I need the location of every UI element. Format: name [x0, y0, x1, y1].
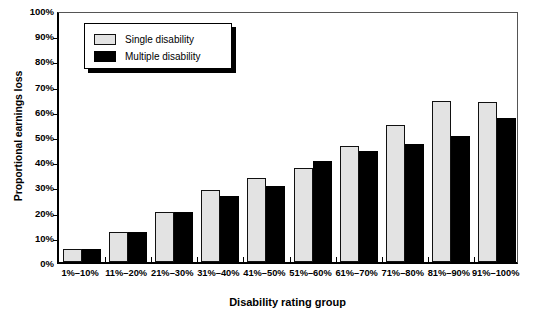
- bar-multiple-disability: [174, 212, 193, 262]
- bar-multiple-disability: [220, 196, 239, 262]
- legend-item-multiple: Multiple disability: [94, 48, 201, 64]
- bar-single-disability: [294, 168, 313, 263]
- bar-single-disability: [340, 146, 359, 262]
- bar-single-disability: [386, 125, 405, 262]
- legend-swatch-multiple-icon: [94, 51, 116, 62]
- x-tick-mark: [243, 257, 244, 263]
- y-tick-mark: [53, 63, 59, 64]
- x-tick-label: 71%–80%: [380, 266, 426, 280]
- y-tick-label: 70%: [20, 83, 54, 93]
- bar-group: [294, 13, 332, 262]
- y-tick-mark: [53, 89, 59, 90]
- x-tick-label: 11%–20%: [103, 266, 149, 280]
- y-tick-mark: [53, 164, 59, 165]
- y-tick-mark: [53, 114, 59, 115]
- bar-single-disability: [432, 101, 451, 262]
- x-tick-label: 91%–100%: [472, 266, 518, 280]
- x-axis-tick-labels: 1%–10%11%–20%21%–30%31%–40%41%–50%51%–60…: [57, 266, 518, 282]
- y-tick-label: 60%: [20, 108, 54, 118]
- y-tick-label: 0%: [20, 259, 54, 269]
- bar-chart: Proportional earnings loss 0%10%20%30%40…: [0, 0, 534, 320]
- y-tick-label: 90%: [20, 32, 54, 42]
- y-tick-mark: [53, 215, 59, 216]
- y-tick-label: 100%: [20, 7, 54, 17]
- y-tick-mark: [53, 189, 59, 190]
- x-tick-label: 21%–30%: [149, 266, 195, 280]
- bar-single-disability: [63, 249, 82, 262]
- x-tick-label: 51%–60%: [288, 266, 334, 280]
- bar-multiple-disability: [405, 144, 424, 262]
- bar-multiple-disability: [451, 136, 470, 262]
- x-tick-label: 81%–90%: [426, 266, 472, 280]
- y-axis-tick-labels: 0%10%20%30%40%50%60%70%80%90%100%: [20, 0, 54, 320]
- bar-multiple-disability: [128, 232, 147, 262]
- legend-label-single: Single disability: [125, 34, 194, 45]
- bar-group: [478, 13, 516, 262]
- y-tick-label: 40%: [20, 158, 54, 168]
- y-tick-mark: [53, 139, 59, 140]
- x-tick-label: 61%–70%: [334, 266, 380, 280]
- x-tick-mark: [197, 257, 198, 263]
- chart-legend: Single disability Multiple disability: [84, 23, 232, 69]
- x-tick-mark: [105, 257, 106, 263]
- bar-single-disability: [109, 232, 128, 262]
- bar-single-disability: [478, 102, 497, 262]
- x-tick-mark: [151, 257, 152, 263]
- bar-single-disability: [155, 212, 174, 262]
- legend-label-multiple: Multiple disability: [125, 51, 201, 62]
- y-tick-label: 50%: [20, 133, 54, 143]
- legend-item-single: Single disability: [94, 31, 194, 47]
- y-tick-label: 30%: [20, 184, 54, 194]
- x-tick-mark: [428, 257, 429, 263]
- bar-group: [386, 13, 424, 262]
- y-tick-mark: [53, 240, 59, 241]
- y-tick-label: 80%: [20, 58, 54, 68]
- y-tick-mark: [53, 38, 59, 39]
- x-tick-mark: [382, 257, 383, 263]
- x-tick-label: 1%–10%: [57, 266, 103, 280]
- bar-multiple-disability: [359, 151, 378, 262]
- bar-multiple-disability: [82, 249, 101, 262]
- x-tick-label: 31%–40%: [195, 266, 241, 280]
- x-axis-title: Disability rating group: [57, 296, 518, 308]
- bar-group: [340, 13, 378, 262]
- bar-group: [432, 13, 470, 262]
- bar-single-disability: [247, 178, 266, 262]
- x-tick-mark: [474, 257, 475, 263]
- bar-multiple-disability: [313, 161, 332, 262]
- legend-swatch-single-icon: [94, 34, 116, 45]
- y-tick-label: 20%: [20, 209, 54, 219]
- x-tick-mark: [336, 257, 337, 263]
- y-tick-label: 10%: [20, 234, 54, 244]
- x-tick-label: 41%–50%: [241, 266, 287, 280]
- bar-single-disability: [201, 190, 220, 262]
- x-tick-mark: [290, 257, 291, 263]
- bar-multiple-disability: [266, 186, 285, 262]
- bar-group: [247, 13, 285, 262]
- bar-multiple-disability: [497, 118, 516, 262]
